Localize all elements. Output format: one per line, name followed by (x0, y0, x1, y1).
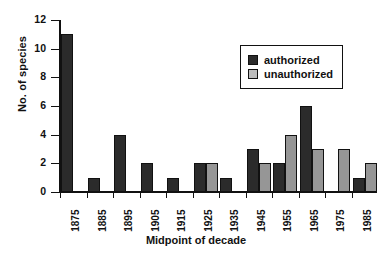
legend-item-unauthorized: unauthorized (248, 68, 333, 80)
y-axis-tick (51, 20, 59, 21)
x-axis-tick-label-1895: 1895 (123, 210, 134, 255)
y-axis-tick-label: 0 (22, 185, 46, 197)
y-axis-tick-label: 10 (22, 42, 46, 54)
x-axis-title: Midpoint of decade (0, 234, 392, 246)
y-axis-tick-label: 4 (22, 128, 46, 140)
x-axis-tick-label-1975: 1975 (335, 210, 346, 255)
bar-authorized-1905 (141, 163, 153, 192)
y-axis-tick (51, 192, 59, 193)
legend-label-authorized: authorized (264, 54, 320, 66)
bar-authorized-1885 (88, 178, 100, 192)
bar-authorized-1895 (114, 135, 126, 192)
legend: authorized unauthorized (240, 45, 343, 89)
x-axis-tick (193, 193, 194, 198)
x-axis-tick (352, 193, 353, 198)
legend-label-unauthorized: unauthorized (264, 68, 333, 80)
bar-unauthorized-1985 (365, 163, 377, 192)
x-axis-tick (246, 193, 247, 198)
x-axis-tick-label-1915: 1915 (176, 210, 187, 255)
y-axis-tick (51, 135, 59, 136)
bar-chart: No. of species 024681012 187518851895190… (0, 0, 392, 255)
bar-authorized-1985 (353, 178, 365, 192)
bar-authorized-1875 (61, 34, 73, 192)
y-axis-tick-label: 6 (22, 99, 46, 111)
x-axis-tick-label-1875: 1875 (70, 210, 81, 255)
x-axis-tick (60, 193, 61, 198)
x-axis-tick (272, 193, 273, 198)
x-axis-tick (325, 193, 326, 198)
bar-authorized-1955 (273, 163, 285, 192)
x-axis-tick-label-1935: 1935 (229, 210, 240, 255)
x-axis-tick-label-1925: 1925 (202, 210, 213, 255)
bar-unauthorized-1925 (206, 163, 218, 192)
legend-swatch-unauthorized (248, 69, 258, 79)
y-axis-tick (51, 49, 59, 50)
x-axis-tick (87, 193, 88, 198)
bar-unauthorized-1975 (338, 149, 350, 192)
x-axis-tick-label-1985: 1985 (361, 210, 372, 255)
y-axis-tick-label: 12 (22, 13, 46, 25)
x-axis-tick-label-1905: 1905 (149, 210, 160, 255)
bar-authorized-1915 (167, 178, 179, 192)
x-axis-tick (219, 193, 220, 198)
bar-authorized-1945 (247, 149, 259, 192)
x-axis-tick-label-1945: 1945 (255, 210, 266, 255)
x-axis-tick (140, 193, 141, 198)
bar-authorized-1965 (300, 106, 312, 192)
y-axis-tick (51, 77, 59, 78)
x-axis-tick-label-1885: 1885 (96, 210, 107, 255)
x-axis-tick (166, 193, 167, 198)
legend-item-authorized: authorized (248, 54, 333, 66)
y-axis-tick-label: 2 (22, 156, 46, 168)
x-axis-tick (299, 193, 300, 198)
bar-authorized-1925 (194, 163, 206, 192)
y-axis-tick-label: 8 (22, 70, 46, 82)
bar-authorized-1935 (220, 178, 232, 192)
x-axis-tick (113, 193, 114, 198)
x-axis-tick-label-1955: 1955 (282, 210, 293, 255)
bar-unauthorized-1955 (285, 135, 297, 192)
y-axis-tick (51, 163, 59, 164)
y-axis-tick (51, 106, 59, 107)
x-axis-tick-label-1965: 1965 (308, 210, 319, 255)
bar-unauthorized-1965 (312, 149, 324, 192)
bar-unauthorized-1945 (259, 163, 271, 192)
legend-swatch-authorized (248, 55, 258, 65)
